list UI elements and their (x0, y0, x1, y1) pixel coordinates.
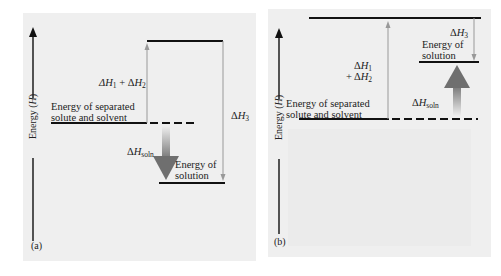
solution-label-line2: solution (175, 170, 217, 181)
solution-label-line2: solution (422, 50, 464, 61)
dhsoln-label: ΔHsoln (127, 146, 154, 157)
solution-energy-label: Energy of solution (422, 39, 464, 61)
energy-axis-arrowhead-icon (29, 27, 37, 37)
separated-energy-label: Energy of separated solute and solvent (51, 101, 135, 123)
separated-label-line1: Energy of separated (51, 101, 135, 112)
axis-label-text: Energy (H) (27, 94, 38, 139)
panel-a-diagram (23, 13, 256, 261)
panel-a-exothermic: Energy (H) ΔH1 + ΔH2 Energy of separated… (23, 13, 256, 261)
dh12-arrowhead-icon (145, 43, 150, 50)
panel-a-tag: (a) (31, 240, 42, 251)
solution-label-line1: Energy of (422, 39, 464, 50)
separated-energy-label: Energy of separated solute and solvent (286, 98, 370, 120)
separated-label-line2: solute and solvent (286, 109, 370, 120)
energy-axis-label: Energy (H) (27, 94, 38, 139)
panel-b-tag: (b) (274, 236, 286, 247)
dh12-arrowhead-icon (386, 21, 391, 28)
dh3-label: ΔH3 (450, 27, 468, 38)
dh3-arrowhead-icon (221, 174, 226, 181)
dh12-label: ΔH1 + ΔH2 (346, 60, 372, 82)
dhsoln-label: ΔHsoln (412, 97, 439, 108)
dh12-label: ΔH1 + ΔH2 (99, 77, 146, 88)
solution-label-line1: Energy of (175, 159, 217, 170)
dh3-arrowhead-icon (472, 54, 477, 61)
panel-b-endothermic: Energy (H) ΔH1 + ΔH2 Energy of separated… (268, 9, 491, 257)
separated-label-line1: Energy of separated (286, 98, 370, 109)
separated-label-line2: solute and solvent (51, 112, 135, 123)
dhsoln-arrowhead-icon (444, 65, 470, 88)
dhsoln-arrow-shaft (453, 84, 461, 116)
energy-axis-arrowhead-icon (275, 28, 283, 38)
energy-axis-label: Energy (H) (273, 95, 284, 140)
dh3-label: ΔH3 (231, 110, 249, 121)
solution-energy-label: Energy of solution (175, 159, 217, 181)
axis-label-text: Energy (H) (273, 95, 284, 140)
dhsoln-arrow-shaft (162, 126, 170, 161)
